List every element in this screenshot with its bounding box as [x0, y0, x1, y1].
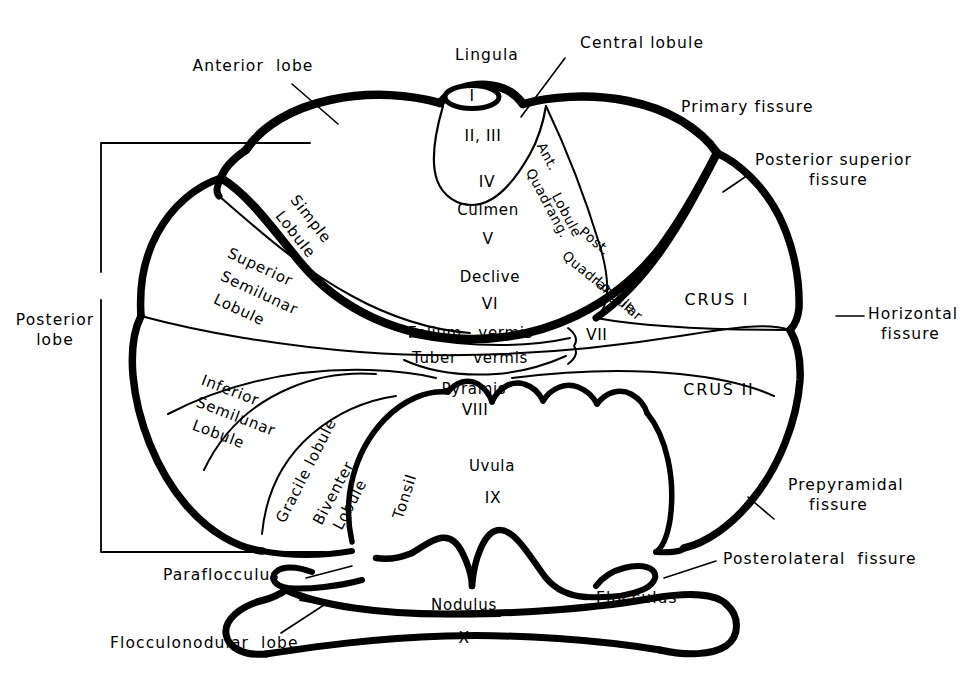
crus-divider-line [596, 318, 790, 330]
right-lateral-margin [684, 153, 800, 548]
callout-posterior-lobe-line1: Posterior [16, 312, 94, 329]
vermis-roman-ix: IX [485, 490, 501, 507]
lower-hemisphere-margin [262, 548, 684, 555]
cerebellum-diagram: Anterior lobe Lingula Central lobule Pri… [0, 0, 973, 677]
callout-posterior-lobe-line2: lobe [36, 332, 74, 349]
callout-lingula: Lingula [455, 47, 519, 64]
leader-prepyramidal-fissure [748, 497, 774, 519]
callout-horizontal-fissure-line2: fissure [881, 326, 940, 343]
callout-paraflocculus: Paraflocculus [163, 567, 280, 584]
vermis-label-declive: Declive [460, 269, 520, 285]
callout-central-lobule: Central lobule [580, 35, 704, 52]
callout-prepyramidal-fissure-line2: fissure [809, 497, 868, 514]
vermis-roman-iv: IV [479, 174, 495, 191]
vermis-label-uvula: Uvula [469, 458, 515, 474]
vii-brace [568, 328, 576, 364]
callout-primary-fissure: Primary fissure [681, 99, 814, 116]
vermis-roman-ii-iii: II, III [465, 128, 502, 145]
leader-lines [281, 58, 864, 633]
vermis-label-folium-vermis: Folium vermis [408, 325, 533, 341]
callout-posterolateral-fissure: Posterolateral fissure [723, 551, 917, 568]
vermis-roman-i: I [469, 88, 474, 105]
vermis-roman-v: V [482, 231, 493, 248]
leader-posterior-superior-fissure [723, 175, 748, 192]
left-superior-fissure-junction [217, 178, 221, 196]
leader-central-lobule [521, 58, 565, 117]
vermis-label-nodulus: Nodulus [431, 597, 497, 613]
callout-posterior-superior-fissure-line1: Posterior superior [755, 152, 912, 169]
vermis-roman-viii: VIII [462, 402, 489, 419]
vermis-label-pyramis: Pyramis [442, 381, 507, 397]
callout-anterior-lobe: Anterior lobe [193, 58, 314, 75]
left-shoulder [221, 150, 246, 178]
region-crus-ii: CRUS II [683, 381, 754, 398]
uvula-lower-peaks [376, 530, 586, 597]
callout-posterior-superior-fissure-line2: fissure [809, 172, 868, 189]
vermis-label-tuber-vermis: Tuber vermis [412, 350, 528, 366]
leader-flocculonodular-lobe [281, 605, 324, 633]
region-flocculus: Flocculus [596, 590, 678, 607]
leader-primary-fissure [676, 120, 718, 152]
callout-flocculonodular-lobe: Flocculonodular lobe [110, 635, 299, 652]
vermis-roman-x: X [458, 630, 469, 647]
callout-prepyramidal-fissure-line1: Prepyramidal [788, 477, 904, 494]
vermis-label-culmen: Culmen [457, 202, 519, 218]
callout-horizontal-fissure-line1: Horizontal [868, 306, 958, 323]
paraflocculus-loop-left [273, 568, 362, 589]
left-lateral-margin [132, 178, 262, 551]
vermis-roman-vii: VII [586, 327, 608, 344]
region-crus-i: CRUS I [685, 291, 750, 308]
vermis-roman-vi: VI [482, 296, 498, 313]
leader-posterolateral-fissure [664, 561, 716, 578]
